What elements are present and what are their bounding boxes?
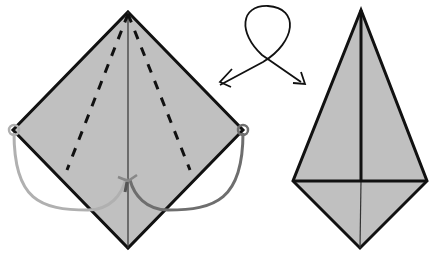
origami-diagram <box>0 0 434 260</box>
turn-over-icon <box>220 6 305 87</box>
kite-after-fold <box>293 10 427 248</box>
diamond-before-fold <box>13 12 243 248</box>
